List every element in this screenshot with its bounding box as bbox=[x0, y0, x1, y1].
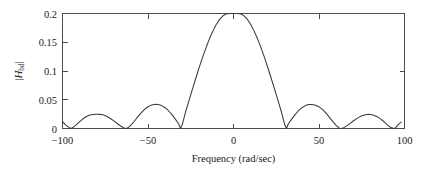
x-axis-title: Frequency (rad/sec) bbox=[192, 153, 276, 165]
magnitude-response-curve bbox=[63, 14, 402, 129]
x-tick-label--100: −100 bbox=[52, 135, 74, 146]
y-tick-label-0.1: 0.1 bbox=[44, 66, 57, 77]
x-tick-label--50: −50 bbox=[140, 135, 156, 146]
y-axis-title-group: |Hbd| bbox=[12, 61, 26, 81]
y-axis-title-suffix: | bbox=[12, 61, 24, 63]
x-tick-labels: −100 −50 0 50 100 bbox=[52, 135, 413, 146]
y-tick-label-0.2: 0.2 bbox=[44, 9, 57, 20]
plot-axes bbox=[63, 14, 405, 129]
axis-frame bbox=[63, 14, 405, 129]
y-tick-labels: 0.2 0.15 0.1 0.05 0 bbox=[39, 9, 57, 135]
magnitude-response-chart: 0.2 0.15 0.1 0.05 0 −100 −50 0 50 100 Fr… bbox=[0, 0, 429, 172]
y-tick-marks bbox=[63, 14, 405, 129]
x-tick-label-50: 50 bbox=[314, 135, 325, 146]
figure-container: 0.2 0.15 0.1 0.05 0 −100 −50 0 50 100 Fr… bbox=[0, 0, 429, 172]
x-tick-label-100: 100 bbox=[397, 135, 413, 146]
y-axis-title: |Hbd| bbox=[12, 61, 26, 81]
y-tick-label-0.15: 0.15 bbox=[39, 37, 57, 48]
y-tick-label-0: 0 bbox=[52, 124, 57, 135]
x-tick-label-0: 0 bbox=[231, 135, 236, 146]
x-tick-marks bbox=[63, 14, 405, 129]
y-tick-label-0.05: 0.05 bbox=[39, 95, 57, 106]
